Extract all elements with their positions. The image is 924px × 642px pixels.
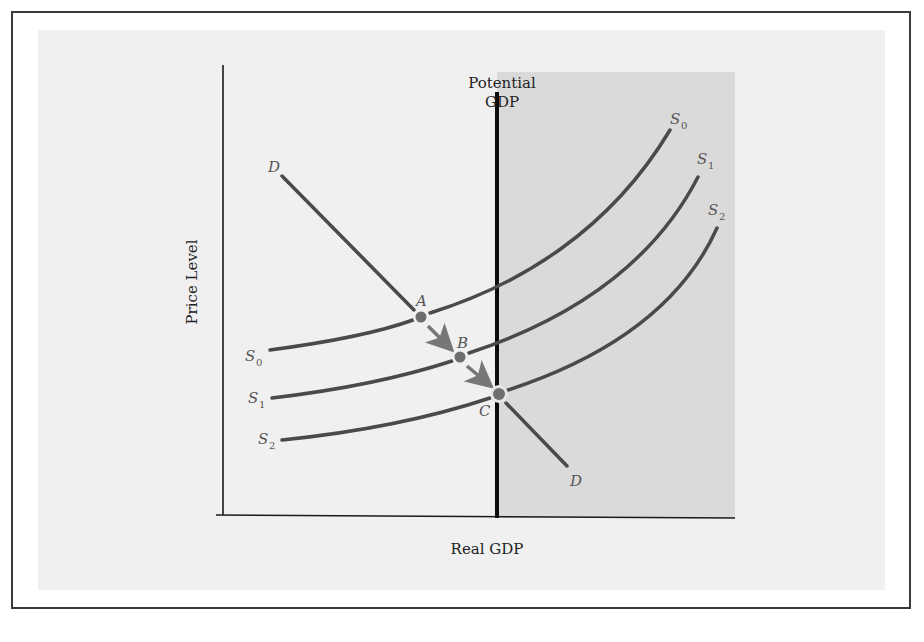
point-c-dot	[493, 388, 505, 400]
point-a-label: A	[414, 292, 427, 310]
point-b-dot	[455, 352, 466, 363]
svg-text:2: 2	[719, 211, 725, 222]
point-b-label: B	[456, 334, 468, 352]
point-c-label: C	[479, 402, 491, 420]
svg-text:0: 0	[256, 357, 262, 368]
svg-text:1: 1	[708, 160, 714, 171]
demand-label-top: D	[267, 158, 280, 176]
potential-gdp-label-line1: Potential	[468, 74, 536, 92]
svg-text:S: S	[670, 110, 680, 128]
svg-text:2: 2	[269, 440, 275, 451]
potential-gdp-label-line2: GDP	[485, 93, 519, 111]
demand-label-bottom: D	[569, 472, 582, 490]
svg-text:S: S	[258, 430, 268, 448]
x-axis-label: Real GDP	[451, 540, 524, 558]
y-axis-label: Price Level	[183, 239, 201, 324]
svg-text:S: S	[708, 201, 718, 219]
svg-text:S: S	[245, 347, 255, 365]
svg-text:S: S	[248, 389, 258, 407]
diagram-canvas: Price Level Real GDP Potential GDP D D S…	[0, 0, 924, 642]
svg-text:0: 0	[681, 120, 687, 131]
figure-panel	[38, 30, 885, 590]
point-a-dot	[416, 312, 427, 323]
figure: Price Level Real GDP Potential GDP D D S…	[0, 0, 924, 642]
svg-text:1: 1	[259, 399, 265, 410]
svg-text:S: S	[697, 150, 707, 168]
shaded-region	[497, 72, 735, 518]
